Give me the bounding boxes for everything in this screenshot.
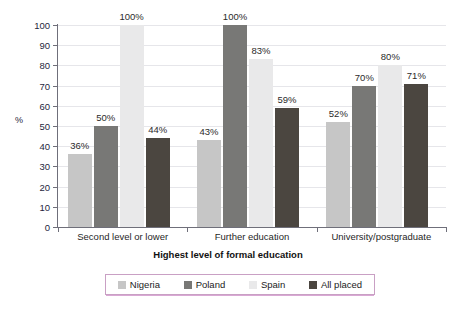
bar [249, 59, 273, 227]
legend-swatch-icon [184, 281, 192, 289]
bar-value-label: 83% [245, 45, 277, 56]
bar [120, 25, 144, 227]
x-axis-category-label: Further education [187, 231, 316, 242]
y-tick-label: 30 [24, 161, 50, 172]
y-tick-label: 70 [24, 80, 50, 91]
legend-item-label: Poland [196, 279, 226, 290]
bar-value-label: 71% [400, 70, 432, 81]
y-tick-label: 20 [24, 181, 50, 192]
legend-item[interactable]: Spain [249, 279, 285, 290]
chart-legend: NigeriaPolandSpainAll placed [105, 274, 375, 295]
y-tick-label: 60 [24, 100, 50, 111]
legend-swatch-icon [249, 281, 257, 289]
bar [378, 65, 402, 227]
y-tick-label: 0 [24, 222, 50, 233]
bar [197, 140, 221, 227]
bar-value-label: 100% [219, 11, 251, 22]
bar [404, 84, 428, 227]
x-axis-end-tick [446, 227, 447, 232]
legend-swatch-icon [309, 281, 317, 289]
legend-item-label: Spain [261, 279, 285, 290]
bar-value-label: 52% [322, 108, 354, 119]
x-axis-category-label: University/postgraduate [317, 231, 446, 242]
x-axis-category-label: Second level or lower [58, 231, 187, 242]
legend-item-label: All placed [321, 279, 362, 290]
bar-value-label: 70% [348, 72, 380, 83]
bar-value-label: 36% [64, 140, 96, 151]
chart-canvas: % 0102030405060708090100 Second level or… [0, 0, 456, 313]
bar [146, 138, 170, 227]
bar [352, 86, 376, 227]
bar-value-label: 43% [193, 126, 225, 137]
bar [275, 108, 299, 227]
legend-item[interactable]: Nigeria [118, 279, 160, 290]
bar-value-label: 59% [271, 94, 303, 105]
x-axis-title: Highest level of formal education [0, 249, 456, 260]
y-tick-label: 10 [24, 201, 50, 212]
bar [223, 25, 247, 227]
bar-value-label: 80% [374, 51, 406, 62]
y-tick-label: 100 [24, 20, 50, 31]
y-tick-label: 50 [24, 121, 50, 132]
bar [94, 126, 118, 227]
y-tick-label: 90 [24, 40, 50, 51]
legend-item-label: Nigeria [130, 279, 160, 290]
x-axis-line [57, 227, 446, 228]
bar-value-label: 100% [116, 11, 148, 22]
legend-item[interactable]: All placed [309, 279, 362, 290]
gridline [58, 25, 446, 26]
legend-swatch-icon [118, 281, 126, 289]
bar-value-label: 44% [142, 124, 174, 135]
y-tick-label: 40 [24, 141, 50, 152]
bar [68, 154, 92, 227]
y-tick-label: 80 [24, 60, 50, 71]
bar-value-label: 50% [90, 112, 122, 123]
legend-item[interactable]: Poland [184, 279, 226, 290]
bar [326, 122, 350, 227]
